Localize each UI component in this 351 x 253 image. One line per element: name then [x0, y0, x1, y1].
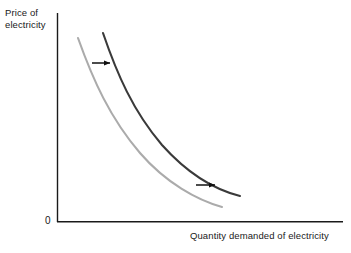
- demand-curves: [78, 33, 240, 207]
- shifted-demand-curve: [103, 33, 240, 196]
- axes: [57, 13, 343, 222]
- origin-label: 0: [45, 215, 51, 227]
- plot-area: [0, 0, 351, 253]
- x-axis-label: Quantity demanded of electricity: [190, 230, 329, 242]
- y-axis-label: Price of electricity: [5, 7, 46, 30]
- demand-shift-figure: Price of electricity Quantity demanded o…: [0, 0, 351, 253]
